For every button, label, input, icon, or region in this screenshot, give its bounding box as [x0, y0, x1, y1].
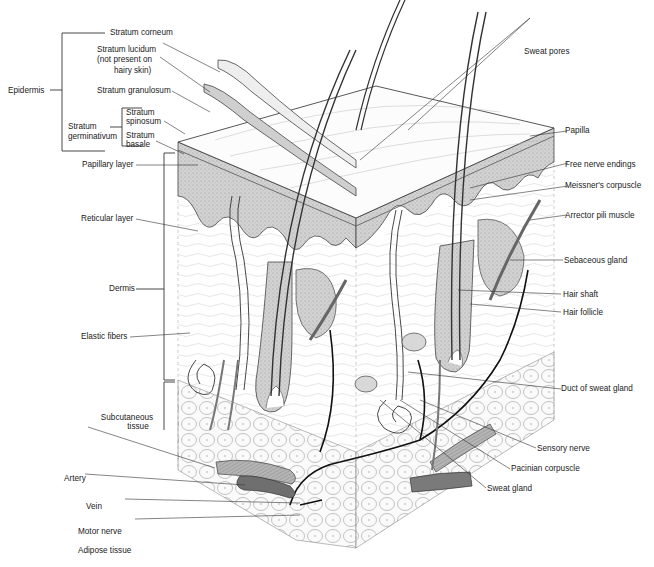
label-papilla: Papilla [565, 126, 590, 136]
label-epidermis: Epidermis [8, 86, 44, 96]
label-motor-nerve: Motor nerve [78, 527, 122, 537]
label-vein: Vein [86, 502, 102, 512]
pacinian-corpuscle-2 [355, 376, 377, 392]
label-dermis: Dermis [109, 284, 135, 294]
label-sebaceous-gland: Sebaceous gland [564, 256, 627, 266]
label-stratum-granulosum: Stratum granulosum [97, 86, 171, 96]
label-papillary-layer: Papillary layer [82, 160, 133, 170]
label-hair-shaft: Hair shaft [563, 290, 598, 300]
label-arrector-pili-muscle: Arrector pili muscle [565, 211, 635, 221]
label-subcutaneous-2: tissue [114, 422, 162, 432]
label-sweat-gland: Sweat gland [487, 484, 532, 494]
label-artery: Artery [64, 474, 86, 484]
label-elastic-fibers: Elastic fibers [81, 332, 127, 342]
label-stratum-lucidum-note-1: (not present on [97, 55, 152, 65]
label-meissners-corpuscle: Meissner's corpuscle [565, 181, 641, 191]
label-sweat-pores: Sweat pores [524, 47, 570, 57]
label-stratum-lucidum-note-2: hairy skin) [114, 66, 151, 76]
label-duct-of-sweat-gland: Duct of sweat gland [561, 384, 633, 394]
label-stratum-germinativum-2: germinativum [68, 132, 117, 142]
label-stratum-corneum: Stratum corneum [110, 28, 173, 38]
label-stratum-basale-2: basale [126, 140, 150, 150]
label-sensory-nerve: Sensory nerve [537, 444, 590, 454]
label-stratum-spinosum-2: spinosum [126, 117, 161, 127]
label-pacinian-corpuscle: Pacinian corpuscle [511, 464, 580, 474]
label-stratum-germinativum-1: Stratum [68, 122, 97, 132]
label-free-nerve-endings: Free nerve endings [565, 160, 636, 170]
label-hair-follicle: Hair follicle [563, 308, 603, 318]
label-reticular-layer: Reticular layer [81, 214, 133, 224]
pacinian-corpuscle-1 [402, 333, 426, 351]
label-adipose-tissue: Adipose tissue [78, 546, 131, 556]
label-stratum-lucidum: Stratum lucidum [97, 45, 156, 55]
